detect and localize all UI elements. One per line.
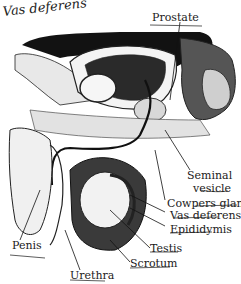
label-cowpers-gland: Cowpers gland [167, 198, 241, 209]
label-vas-deferens: Vas deferens [170, 210, 241, 221]
label-urethra: Urethra [70, 270, 114, 281]
label-penis: Penis [12, 240, 42, 251]
label-seminal: Seminal [187, 170, 232, 181]
label-prostate: Prostate [152, 12, 199, 23]
anatomy-diagram: Vas deferens Prostate Seminal vesicle Co… [0, 0, 241, 284]
label-epididymis: Epididymis [170, 224, 232, 235]
label-testis: Testis [150, 243, 182, 254]
label-vesicle: vesicle [193, 183, 231, 194]
label-scrotum: Scrotum [130, 258, 178, 269]
